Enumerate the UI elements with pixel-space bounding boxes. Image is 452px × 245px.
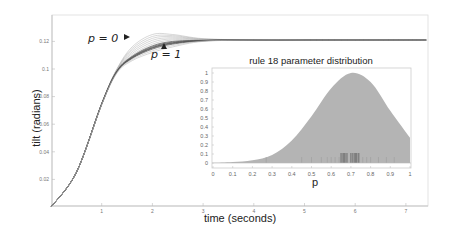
y-tick-label: 0.1 [42,66,49,72]
annotation-p0: p = 0 [87,32,118,45]
inset-x-tick-label: 0.3 [268,171,276,177]
x-tick-label: 7 [405,208,408,214]
inset-x-tick-label: 0.9 [386,171,394,177]
inset-y-tick-label: 0.9 [200,79,208,85]
annotation-p1: p = 1 [150,48,181,61]
inset-x-tick-label: 1 [408,171,411,177]
inset-x-tick-label: 0.6 [327,171,335,177]
inset-y-tick-label: 0.5 [200,115,208,121]
right-triangle-marker-icon [124,34,130,40]
inset-y-tick-label: 0.1 [200,151,208,157]
inset-y-tick-label: 1 [205,70,208,76]
x-tick-label: 5 [303,208,306,214]
x-tick-label: 6 [354,208,357,214]
y-tick-label: 0.12 [39,38,49,44]
inset-x-axis-label: p [312,176,318,188]
inset-x-tick-label: 0 [211,171,214,177]
inset-y-tick-label: 0 [205,160,208,166]
x-axis-label: time (seconds) [204,212,276,224]
inset-x-tick-label: 0.8 [367,171,375,177]
inset-x-tick-label: 0.4 [288,171,296,177]
inset-x-tick-label: 0.2 [249,171,257,177]
inset-y-tick-label: 0.2 [200,142,208,148]
inset-y-tick-label: 0.4 [200,124,208,130]
x-tick-label: 2 [151,208,154,214]
y-axis-label: tilt (radians) [30,89,42,146]
inset-y-tick-label: 0.6 [200,106,208,112]
figure: 0.020.040.060.080.10.12 1234567 p = 0 p … [0,0,452,245]
y-tick-label: 0.02 [39,176,49,182]
inset-x-tick-label: 0.1 [229,171,237,177]
x-tick-label: 1 [100,208,103,214]
inset-x-tick-label: 0.7 [347,171,355,177]
inset-y-tick-label: 0.3 [200,133,208,139]
inset-y-tick-label: 0.8 [200,88,208,94]
inset-y-tick-label: 0.7 [200,97,208,103]
y-tick-label: 0.04 [39,149,49,155]
inset-title: rule 18 parameter distribution [249,55,373,66]
